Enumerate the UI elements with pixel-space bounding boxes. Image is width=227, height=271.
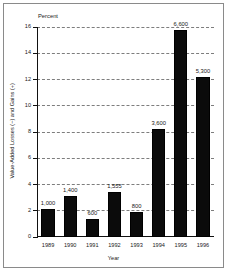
bar-chart: Percent 1614121086420 1,0001,4006001,555…: [0, 0, 227, 271]
y-axis-tick-label: 8: [15, 129, 31, 135]
bar: [174, 30, 187, 237]
bar: [108, 192, 121, 237]
bar-value-label: 6,600: [165, 22, 197, 28]
y-axis-tick-label: 12: [15, 77, 31, 83]
bar-value-label: 800: [121, 204, 153, 210]
y-axis-tick-label: 0: [15, 234, 31, 240]
y-axis-tick-label: 10: [15, 103, 31, 109]
bar: [152, 129, 165, 237]
bar-value-label: 1,400: [54, 188, 86, 194]
figure-screenshot: Percent 1614121086420 1,0001,4006001,555…: [0, 0, 227, 271]
bar: [41, 209, 54, 237]
bar-value-label: 1,000: [32, 201, 64, 207]
bar-value-label: 3,600: [143, 121, 175, 127]
x-axis-title: Year: [0, 256, 227, 262]
y-axis-tick-label: 2: [15, 208, 31, 214]
bar-value-label: 600: [76, 211, 108, 217]
y-axis-unit-label: Percent: [38, 14, 58, 20]
y-axis-title: Value-Added Losses (−) and Gains (+): [10, 56, 16, 206]
y-axis-tick-label: 16: [15, 24, 31, 30]
bar: [86, 219, 99, 237]
y-axis-tick-label: 6: [15, 155, 31, 161]
bar: [196, 77, 209, 237]
bar: [64, 196, 77, 237]
bar-value-label: 5,300: [187, 69, 219, 75]
y-axis-tick-label: 4: [15, 182, 31, 188]
bar: [130, 212, 143, 237]
x-axis-tick-label: 1996: [190, 243, 216, 249]
bar-value-label: 1,555: [98, 184, 130, 190]
y-axis-tick-label: 14: [15, 50, 31, 56]
